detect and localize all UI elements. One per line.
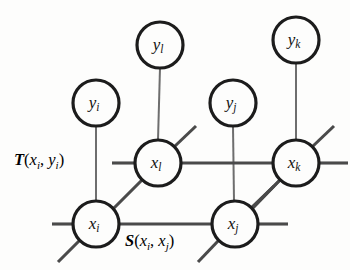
label-T-function-name: T	[14, 150, 24, 169]
stub-xj-downleft	[198, 240, 219, 262]
label-T-arg1-base: x	[30, 150, 37, 169]
label-T-arg2-sub: i	[56, 159, 59, 171]
node-x-j[interactable]: xj	[212, 201, 258, 247]
node-y-l[interactable]: yl	[137, 22, 183, 68]
node-x-l[interactable]: xl	[135, 140, 181, 186]
label-S-arg2-base: x	[158, 231, 165, 250]
node-y-k[interactable]: yk	[273, 17, 319, 63]
node-y-i[interactable]: yi	[73, 80, 119, 126]
edge-yl-xl	[158, 68, 160, 140]
label-S: S(xi, xj)	[125, 231, 174, 252]
graph-canvas: ylykyiyjxlxkxixj	[0, 0, 350, 270]
edge-xi-xl	[113, 180, 142, 209]
label-S-function-name: S	[125, 231, 134, 250]
label-S-arg2-sub: j	[166, 240, 169, 252]
stub-xk-upright	[312, 126, 334, 147]
node-y-j[interactable]: yj	[210, 80, 256, 126]
label-S-arg1-base: x	[140, 231, 147, 250]
stub-xj-upright	[251, 186, 274, 208]
edges-layer	[96, 63, 296, 224]
label-T-arg1-sub: i	[37, 159, 40, 171]
stub-xi-downleft	[58, 240, 80, 262]
node-x-k[interactable]: xk	[273, 140, 319, 186]
stub-xl-upright	[174, 126, 196, 147]
label-T: T(xi, yi)	[14, 150, 64, 171]
label-T-arg2-base: y	[48, 150, 55, 169]
label-S-arg1-sub: i	[147, 240, 150, 252]
mrf-graph-figure: ylykyiyjxlxkxixj T(xi, yi)S(xi, xj)	[0, 0, 350, 270]
nodes-layer: ylykyiyjxlxkxixj	[73, 17, 319, 247]
node-x-i[interactable]: xi	[73, 201, 119, 247]
